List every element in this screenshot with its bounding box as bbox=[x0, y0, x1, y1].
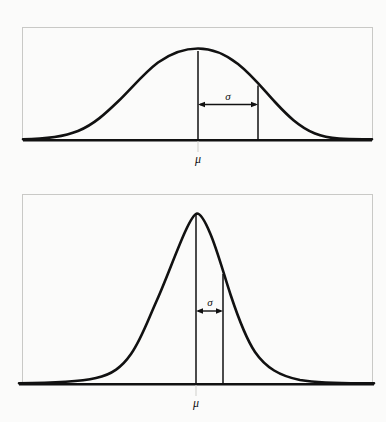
wide-sigma-label: σ bbox=[225, 90, 231, 102]
narrow-mean-label: μ bbox=[192, 396, 199, 410]
wide-mean-label: μ bbox=[194, 152, 201, 166]
wide-normal-curve-panel: σ μ bbox=[0, 0, 386, 180]
narrow-sigma-label: σ bbox=[207, 296, 213, 308]
wide-sigma-arrowhead-right-icon bbox=[251, 102, 258, 107]
figure-root: σ μ σ μ bbox=[0, 0, 386, 422]
wide-sigma-arrowhead-left-icon bbox=[198, 102, 205, 107]
narrow-normal-curve-panel: σ μ bbox=[0, 180, 386, 422]
wide-normal-curve-svg: σ μ bbox=[0, 0, 386, 180]
narrow-sigma-arrowhead-right-icon bbox=[216, 308, 223, 313]
narrow-normal-curve-svg: σ μ bbox=[0, 180, 386, 422]
narrow-panel-frame bbox=[23, 195, 373, 385]
narrow-sigma-arrowhead-left-icon bbox=[196, 308, 203, 313]
